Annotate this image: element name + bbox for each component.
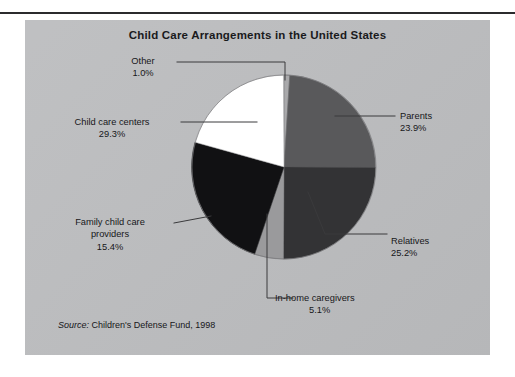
callout-family-line-1: Family child care xyxy=(75,217,145,227)
pie-chart xyxy=(191,74,377,260)
callout-parents-label: Parents xyxy=(400,111,432,121)
callout-other-label: Other xyxy=(131,56,154,66)
top-horizontal-rule xyxy=(0,12,515,14)
callout-child-care-centers-value: 29.3% xyxy=(46,128,178,140)
callout-family-line-2: providers xyxy=(42,228,178,240)
callout-family-value: 15.4% xyxy=(42,241,178,253)
callout-parents-value: 23.9% xyxy=(400,122,480,134)
callout-child-care-centers: Child care centers 29.3% xyxy=(46,116,178,141)
chart-panel: Child Care Arrangements in the United St… xyxy=(25,20,490,355)
source-label: Source: xyxy=(58,320,89,330)
callout-family-child-care-providers: Family child care providers 15.4% xyxy=(42,216,178,253)
callout-parents: Parents 23.9% xyxy=(400,110,480,135)
callout-relatives-value: 25.2% xyxy=(391,247,471,259)
callout-relatives-label: Relatives xyxy=(391,236,429,246)
pie-slice-relatives xyxy=(283,167,375,259)
chart-title: Child Care Arrangements in the United St… xyxy=(25,29,490,41)
callout-in-home-caregivers-value: 5.1% xyxy=(309,304,425,316)
callout-relatives: Relatives 25.2% xyxy=(391,235,471,260)
source-text: Children's Defense Fund, 1998 xyxy=(92,320,216,330)
callout-other: Other 1.0% xyxy=(112,55,174,80)
pie-slice-parents xyxy=(284,75,375,167)
pie-svg xyxy=(191,74,377,260)
source-note: Source: Children's Defense Fund, 1998 xyxy=(58,320,215,330)
figure-page: Child Care Arrangements in the United St… xyxy=(0,0,515,377)
callout-in-home-caregivers: In-home caregivers 5.1% xyxy=(275,292,425,317)
callout-child-care-centers-label: Child care centers xyxy=(75,117,150,127)
callout-other-value: 1.0% xyxy=(112,67,174,79)
callout-in-home-caregivers-label: In-home caregivers xyxy=(275,293,355,303)
